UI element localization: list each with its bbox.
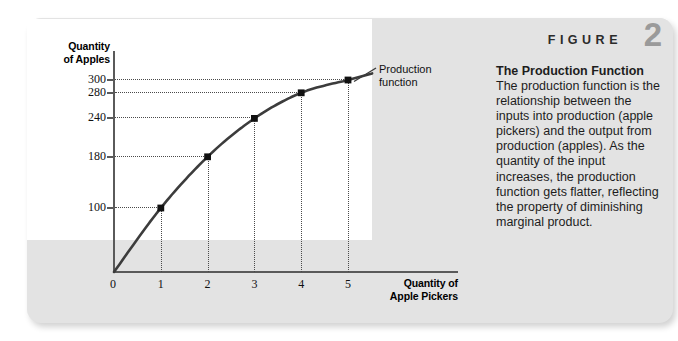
series-annotation-label: Production function bbox=[379, 63, 432, 89]
vertical-guide-line bbox=[161, 208, 162, 272]
horizontal-guide-line bbox=[115, 117, 254, 118]
y-tick-mark bbox=[107, 207, 115, 209]
y-tick-label: 280 bbox=[62, 85, 106, 100]
origin-label: 0 bbox=[101, 277, 125, 292]
vertical-guide-line bbox=[254, 118, 255, 272]
figure-caption-column: FIGURE 2 The Production Function The pro… bbox=[496, 24, 664, 230]
y-axis-title-line2: of Apples bbox=[63, 53, 110, 65]
x-axis-title: Quantity of Apple Pickers bbox=[346, 277, 458, 303]
y-axis-title: Quantity of Apples bbox=[36, 40, 110, 66]
x-axis-line bbox=[113, 271, 458, 273]
horizontal-guide-line bbox=[115, 207, 161, 208]
vertical-guide-line bbox=[301, 93, 302, 272]
series-label-line1: Production bbox=[379, 63, 432, 75]
horizontal-guide-line bbox=[115, 79, 348, 80]
x-tick-label: 3 bbox=[242, 277, 266, 292]
y-tick-label: 180 bbox=[62, 149, 106, 164]
vertical-guide-line bbox=[208, 157, 209, 272]
figure-header: FIGURE 2 bbox=[496, 24, 664, 60]
x-tick-label: 5 bbox=[336, 277, 360, 292]
x-tick-label: 1 bbox=[149, 277, 173, 292]
horizontal-guide-line bbox=[115, 92, 301, 93]
figure-caption-title: The Production Function bbox=[496, 64, 664, 79]
y-tick-mark bbox=[107, 92, 115, 94]
vertical-guide-line bbox=[348, 80, 349, 272]
figure-number: 2 bbox=[644, 18, 662, 51]
y-tick-label: 240 bbox=[62, 110, 106, 125]
y-axis-line bbox=[113, 51, 115, 273]
x-tick-label: 4 bbox=[289, 277, 313, 292]
x-tick-label: 2 bbox=[196, 277, 220, 292]
y-tick-mark bbox=[107, 117, 115, 119]
series-label-line2: function bbox=[379, 76, 418, 88]
y-tick-mark bbox=[107, 79, 115, 81]
y-tick-label: 300 bbox=[62, 72, 106, 87]
horizontal-guide-line bbox=[115, 156, 208, 157]
x-axis-title-line1: Quantity of bbox=[404, 277, 458, 289]
y-tick-label: 100 bbox=[62, 200, 106, 215]
y-axis-title-line1: Quantity bbox=[68, 40, 110, 52]
x-axis-title-line2: Apple Pickers bbox=[390, 290, 458, 302]
figure-caption-body: The production function is the relations… bbox=[496, 79, 664, 230]
y-tick-mark bbox=[107, 156, 115, 158]
figure-label-word: FIGURE bbox=[548, 33, 622, 47]
